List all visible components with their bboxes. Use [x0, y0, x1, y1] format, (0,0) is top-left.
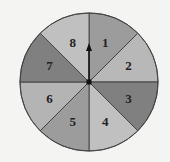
- sector-label: 2: [125, 58, 132, 73]
- sector-label: 8: [69, 35, 76, 50]
- sector-label: 3: [125, 91, 132, 106]
- sector-label: 1: [102, 35, 109, 50]
- sector-label: 4: [102, 114, 109, 129]
- spinner: 12345678: [0, 0, 170, 162]
- sector-label: 6: [46, 91, 53, 106]
- sector-label: 5: [69, 114, 76, 129]
- spinner-pivot: [87, 80, 92, 85]
- sector-label: 7: [46, 58, 53, 73]
